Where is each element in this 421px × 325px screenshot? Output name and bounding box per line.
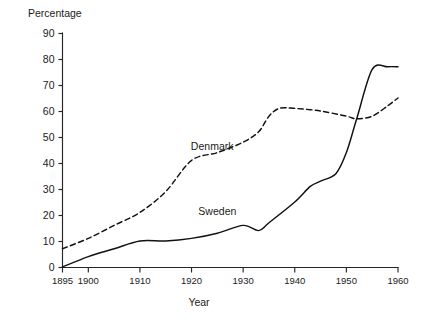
x-tick-label-1960: 1960: [387, 276, 408, 286]
line-chart: Percentage Year 0102030405060708090 1895…: [0, 0, 421, 325]
y-tick-label-50: 50: [29, 132, 55, 143]
y-tick-label-40: 40: [29, 158, 55, 169]
series-line-sweden: [63, 65, 399, 267]
y-tick-label-90: 90: [29, 28, 55, 39]
x-axis-ticks: [63, 268, 399, 273]
y-axis-title: Percentage: [28, 8, 82, 19]
x-tick-label-1950: 1950: [336, 276, 357, 286]
x-tick-label-1930: 1930: [233, 276, 254, 286]
x-tick-label-1895: 1895: [52, 276, 73, 286]
y-tick-label-10: 10: [29, 236, 55, 247]
y-tick-label-30: 30: [29, 184, 55, 195]
x-tick-label-1940: 1940: [284, 276, 305, 286]
x-tick-label-1920: 1920: [181, 276, 202, 286]
series-label-denmark: Denmark: [191, 141, 234, 152]
y-axis-ticks: [59, 34, 63, 268]
x-tick-label-1900: 1900: [78, 276, 99, 286]
x-tick-label-1910: 1910: [129, 276, 150, 286]
y-tick-label-0: 0: [29, 262, 55, 273]
series-line-denmark: [63, 98, 399, 249]
y-tick-label-20: 20: [29, 210, 55, 221]
y-tick-label-60: 60: [29, 106, 55, 117]
x-axis-title: Year: [188, 297, 209, 308]
series-label-sweden: Sweden: [198, 206, 236, 217]
chart-series-group: [63, 65, 399, 267]
y-tick-label-80: 80: [29, 54, 55, 65]
y-tick-label-70: 70: [29, 80, 55, 91]
